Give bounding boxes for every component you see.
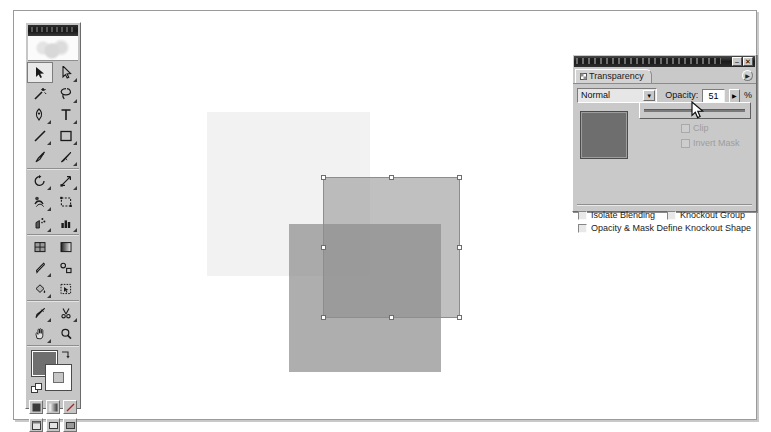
direct-selection-tool[interactable]: [53, 62, 79, 83]
transparency-tab-icon: [580, 73, 587, 80]
mesh-tool[interactable]: [27, 236, 53, 257]
layer-thumbnail[interactable]: [580, 111, 628, 159]
square-front-dark[interactable]: [289, 224, 441, 372]
isolate-blending-row[interactable]: Isolate Blending: [578, 211, 655, 220]
opacity-slider-toggle-icon[interactable]: ▶: [729, 89, 740, 103]
tool-flyout-indicator: [47, 228, 51, 232]
paintbrush-tool[interactable]: [27, 146, 53, 167]
free-transform-icon: [59, 195, 73, 209]
hand-tool[interactable]: [27, 323, 53, 344]
palette-menu-button[interactable]: ▶: [742, 70, 753, 81]
toolbox-palette[interactable]: [25, 22, 81, 409]
toolbox-separator: [27, 345, 79, 346]
application-window-frame: – ✕ Transparency ▶ Normal ▼ Op: [13, 10, 757, 420]
selection-tool[interactable]: [27, 62, 53, 83]
blend-mode-select[interactable]: Normal ▼: [577, 88, 657, 103]
scale-tool[interactable]: [53, 170, 79, 191]
gradient-tool[interactable]: [53, 236, 79, 257]
zoom-tool[interactable]: [53, 323, 79, 344]
blend-mode-value: Normal: [578, 91, 610, 100]
tab-transparency-label: Transparency: [589, 72, 644, 81]
chevron-down-icon[interactable]: ▼: [643, 90, 655, 101]
symbol-sprayer-icon: [33, 216, 47, 230]
pencil-tool[interactable]: [53, 146, 79, 167]
live-paint-selection-tool[interactable]: [53, 278, 79, 299]
toolbox-tool-grid: [26, 61, 80, 347]
column-graph-icon: [59, 216, 73, 230]
scissors-tool[interactable]: [53, 302, 79, 323]
fill-stroke-controls: [31, 350, 80, 396]
pen-tool[interactable]: [27, 104, 53, 125]
isolate-blending-checkbox[interactable]: [578, 211, 587, 220]
opacity-mask-knockout-row[interactable]: Opacity & Mask Define Knockout Shape: [578, 224, 751, 233]
clip-checkbox-row: Clip: [681, 124, 709, 133]
opacity-input[interactable]: 51: [702, 89, 724, 103]
magic-wand-tool[interactable]: [27, 83, 53, 104]
default-fill-stroke-icon[interactable]: [31, 383, 43, 395]
transparency-palette[interactable]: – ✕ Transparency ▶ Normal ▼ Op: [572, 54, 757, 212]
rectangle-icon: [59, 129, 73, 143]
clip-checkbox: [681, 124, 690, 133]
color-button[interactable]: [29, 400, 43, 414]
type-tool[interactable]: [53, 104, 79, 125]
knockout-group-checkbox[interactable]: [667, 211, 676, 220]
line-segment-tool[interactable]: [27, 125, 53, 146]
knockout-group-row[interactable]: Knockout Group: [667, 211, 745, 220]
tab-transparency[interactable]: Transparency: [575, 69, 652, 83]
rotate-icon: [33, 174, 47, 188]
standard-screen-mode-button[interactable]: [29, 418, 43, 432]
none-button[interactable]: [63, 400, 77, 414]
invert-mask-label: Invert Mask: [693, 139, 740, 148]
mesh-grid-icon: [33, 240, 47, 254]
toolbox-title-bar[interactable]: [28, 25, 78, 36]
opacity-slider-popup[interactable]: [639, 102, 751, 119]
opacity-mask-knockout-checkbox[interactable]: [578, 224, 587, 233]
tool-flyout-indicator: [47, 186, 51, 190]
free-transform-tool[interactable]: [53, 191, 79, 212]
toolbox-title-text: [31, 27, 75, 32]
rotate-tool[interactable]: [27, 170, 53, 191]
type-T-icon: [60, 108, 72, 122]
opacity-slider-track[interactable]: [644, 109, 745, 112]
isolate-blending-label: Isolate Blending: [591, 211, 655, 220]
warp-tool[interactable]: [27, 191, 53, 212]
line-segment-icon: [33, 129, 47, 143]
bottom-options-row-2: Opacity & Mask Define Knockout Shape: [578, 224, 752, 233]
swap-fill-stroke-icon[interactable]: [61, 349, 72, 360]
full-screen-button[interactable]: [63, 418, 77, 432]
slice-tool[interactable]: [27, 302, 53, 323]
pen-nib-icon: [34, 108, 46, 122]
tool-flyout-indicator: [73, 99, 77, 103]
live-paint-bucket-tool[interactable]: [27, 278, 53, 299]
tool-flyout-indicator: [73, 141, 77, 145]
tool-flyout-indicator: [73, 228, 77, 232]
scale-icon: [59, 174, 73, 188]
gradient-button[interactable]: [46, 400, 60, 414]
color-mode-button-row: [26, 400, 80, 414]
full-screen-icon: [66, 421, 75, 430]
full-screen-menubar-button[interactable]: [46, 418, 60, 432]
tool-flyout-indicator: [73, 186, 77, 190]
screen-mode-button-row: [26, 418, 80, 432]
eyedropper-tool[interactable]: [27, 257, 53, 278]
symbol-sprayer-tool[interactable]: [27, 212, 53, 233]
toolbox-separator: [27, 168, 79, 169]
opacity-mask-knockout-label: Opacity & Mask Define Knockout Shape: [591, 224, 751, 233]
blend-tool[interactable]: [53, 257, 79, 278]
rectangle-tool[interactable]: [53, 125, 79, 146]
invert-mask-checkbox: [681, 139, 690, 148]
stroke-inner-hole: [53, 372, 64, 383]
stroke-color-swatch[interactable]: [45, 364, 72, 391]
close-button[interactable]: ✕: [743, 57, 753, 66]
tool-flyout-indicator: [47, 339, 51, 343]
palette-title-bar[interactable]: – ✕: [574, 56, 755, 67]
blend-icon: [59, 261, 73, 275]
eyedropper-icon: [33, 261, 47, 275]
toolbox-separator: [27, 234, 79, 235]
live-paint-selection-icon: [59, 282, 73, 296]
minimize-button[interactable]: –: [732, 57, 742, 66]
lasso-tool[interactable]: [53, 83, 79, 104]
tool-flyout-indicator: [47, 294, 51, 298]
magic-wand-icon: [33, 87, 47, 101]
column-graph-tool[interactable]: [53, 212, 79, 233]
